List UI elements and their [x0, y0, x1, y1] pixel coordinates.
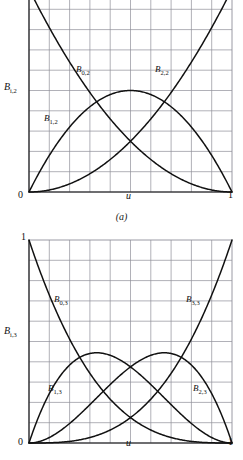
curve-label-b02: B0,2 [76, 64, 90, 76]
curve-label-b12: B1,2 [44, 113, 58, 125]
x-axis-label-b: u [126, 437, 131, 448]
x-axis-max-tick-b: 1 [228, 436, 233, 447]
curve-label-b33-sub: 3,3 [192, 299, 200, 306]
curve-label-b22: B2,2 [155, 64, 169, 76]
x-axis-min-tick-b: 0 [18, 436, 23, 447]
curve-label-b22-sub: 2,2 [161, 69, 169, 76]
plot-area-a [0, 0, 243, 230]
curve-label-b23: B2,3 [193, 383, 207, 395]
y-axis-label-b: Bi,3 [4, 325, 17, 338]
grid-lines-b [29, 240, 232, 443]
y-axis-max-tick-b: 1 [21, 231, 26, 242]
curve-label-b13: B1,3 [48, 383, 62, 395]
plot-area-b [0, 230, 243, 460]
y-axis-label-a: Bi,2 [4, 81, 17, 94]
x-axis-label-a: u [126, 190, 131, 201]
curve-label-b02-sub: 0,2 [82, 69, 90, 76]
y-axis-label-a-sub: i,2 [10, 87, 17, 94]
grid-lines-a [29, 0, 232, 192]
x-axis-max-tick-a: 1 [228, 189, 233, 200]
x-axis-min-tick-a: 0 [18, 189, 23, 200]
curve-label-b03-sub: 0,3 [60, 299, 68, 306]
y-axis-label-b-sub: i,3 [10, 331, 17, 338]
figure-panel-b: 0 1 1 u Bi,3 B0,3 B1,3 B2,3 B3,3 [0, 230, 243, 460]
figure-panel-a: 0 1 u Bi,2 B0,2 B1,2 B2,2 (a) [0, 0, 243, 230]
curve-label-b03: B0,3 [54, 294, 68, 306]
curve-label-b13-sub: 1,3 [54, 388, 62, 395]
curve-label-b12-sub: 1,2 [50, 118, 58, 125]
figure-caption-a: (a) [0, 211, 243, 222]
curve-label-b33: B3,3 [186, 294, 200, 306]
curve-label-b23-sub: 2,3 [199, 388, 207, 395]
